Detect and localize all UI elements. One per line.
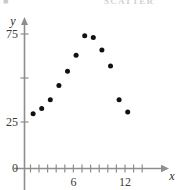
data-point-group [31,33,131,116]
data-point [74,53,79,58]
data-point [48,97,53,102]
scatter-plot-figure: ■ SCATTER y x 75 25 0 [0,0,182,190]
data-point [82,33,87,38]
data-point [108,63,113,68]
y-tick-label-0: 0 [12,161,18,175]
y-tick-label-75: 75 [6,27,18,41]
data-point [56,83,61,88]
y-tick-label-25: 25 [6,115,18,129]
x-axis-label: x [168,169,175,183]
data-point [125,110,130,115]
data-point [31,111,36,116]
x-tick-label-12: 12 [119,175,131,189]
x-tick-label-6: 6 [70,175,76,189]
y-axis-label: y [9,14,16,28]
scatter-chart: y x 75 25 0 6 [0,0,182,190]
y-axis-arrow [21,17,28,25]
data-point [99,47,104,52]
data-point [117,97,122,102]
x-axis-arrow [161,165,169,172]
data-point [39,106,44,111]
data-point [91,35,96,40]
data-point [65,69,70,74]
